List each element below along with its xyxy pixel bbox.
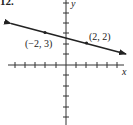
point-a-marker bbox=[43, 31, 46, 34]
problem-number: 12. bbox=[0, 0, 14, 7]
coordinate-plane: (−2, 3) (2, 2) x y 12. bbox=[0, 0, 133, 125]
y-axis bbox=[63, 0, 69, 125]
y-axis-label: y bbox=[70, 0, 76, 9]
point-b-label: (2, 2) bbox=[89, 31, 111, 43]
x-axis-label: x bbox=[121, 66, 127, 77]
point-a-label: (−2, 3) bbox=[25, 38, 52, 50]
point-b-marker bbox=[85, 41, 88, 44]
